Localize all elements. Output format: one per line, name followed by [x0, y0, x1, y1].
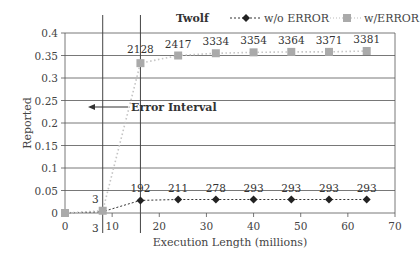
x-tick-label: 30: [200, 220, 213, 232]
data-label: 192: [130, 182, 150, 194]
x-tick-label: 10: [105, 220, 118, 232]
square-marker: [136, 59, 144, 67]
diamond-marker: [136, 196, 144, 204]
diamond-marker-icon: [242, 14, 250, 22]
square-marker: [287, 48, 295, 56]
diamond-marker: [250, 196, 258, 204]
data-label: 2128: [127, 43, 154, 55]
arrow-left-icon: [88, 104, 95, 110]
diamond-marker: [363, 196, 371, 204]
legend-label-with-error: w/ERROR: [364, 12, 420, 25]
data-label: 3381: [353, 33, 380, 45]
data-label: 3371: [316, 34, 343, 46]
axes: 00.050.10.150.20.250.30.350.401020304050…: [35, 27, 402, 232]
square-marker: [250, 48, 258, 56]
square-marker-icon: [343, 14, 351, 22]
y-tick-label: 0.1: [41, 162, 58, 174]
error-interval-label: Error Interval: [131, 101, 217, 114]
x-axis-title: Execution Length (millions): [153, 236, 308, 249]
grid-lines: [65, 33, 395, 191]
data-label: 293: [281, 182, 301, 194]
data-label: 293: [319, 182, 339, 194]
x-tick-label: 50: [294, 220, 307, 232]
x-tick-label: 70: [388, 220, 401, 232]
x-tick-label: 40: [247, 220, 260, 232]
y-tick-label: 0: [51, 207, 58, 219]
square-marker: [212, 49, 220, 57]
diamond-marker: [212, 196, 220, 204]
data-label: 3: [92, 222, 99, 234]
diamond-marker: [325, 196, 333, 204]
y-tick-label: 0.4: [41, 27, 58, 39]
data-label: 2417: [165, 38, 192, 50]
data-labels: 3192211278293293293293321282417333433543…: [92, 33, 380, 234]
data-label: 3354: [240, 34, 267, 46]
x-tick-label: 60: [341, 220, 354, 232]
data-label: 3: [92, 193, 99, 205]
square-marker: [99, 207, 107, 215]
x-tick-label: 20: [153, 220, 166, 232]
chart: 00.050.10.150.20.250.30.350.401020304050…: [0, 0, 420, 259]
square-marker: [61, 209, 69, 217]
data-label: 293: [244, 182, 264, 194]
y-axis-title: Reported: [21, 97, 34, 149]
data-label: 3364: [278, 34, 305, 46]
legend-label-without-error: w/o ERROR: [264, 12, 330, 25]
y-tick-label: 0.25: [35, 95, 58, 107]
x-tick-label: 0: [62, 220, 69, 232]
y-tick-label: 0.15: [35, 140, 58, 152]
y-tick-label: 0.35: [35, 50, 58, 62]
square-marker: [325, 48, 333, 56]
chart-title: Twolf: [176, 12, 210, 25]
data-label: 3334: [202, 35, 229, 47]
error-interval-annotation: Error Interval: [88, 101, 217, 114]
diamond-marker: [287, 196, 295, 204]
data-label: 293: [357, 182, 377, 194]
y-tick-label: 0.05: [35, 185, 58, 197]
data-label: 278: [206, 182, 226, 194]
y-tick-label: 0.3: [41, 72, 58, 84]
data-label: 211: [168, 182, 188, 194]
square-marker: [174, 52, 182, 60]
square-marker: [363, 47, 371, 55]
diamond-marker: [174, 196, 182, 204]
y-tick-label: 0.2: [41, 117, 58, 129]
legend: w/o ERROR w/ERROR: [230, 12, 420, 25]
